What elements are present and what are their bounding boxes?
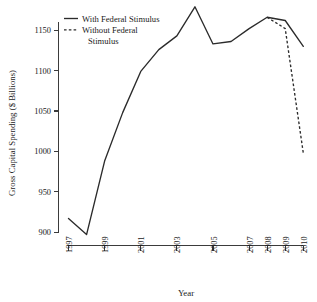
y-tick-label: 1100 bbox=[35, 67, 51, 76]
x-tick-label: 2005 bbox=[210, 236, 219, 253]
y-axis-tick-labels: 1150 1100 1050 1000 950 900 bbox=[34, 26, 51, 237]
legend-label-without-stimulus-line2: Stimulus bbox=[88, 36, 119, 46]
y-axis-ticks bbox=[54, 30, 59, 232]
x-tick-label: 2008 bbox=[264, 236, 273, 253]
chart-figure: 1150 1100 1050 1000 950 900 1997 1999 20… bbox=[0, 0, 317, 302]
x-tick-label: 2010 bbox=[300, 236, 309, 253]
y-tick-label: 1050 bbox=[34, 107, 51, 116]
x-tick-label: 2003 bbox=[173, 236, 182, 253]
y-tick-label: 900 bbox=[38, 228, 51, 237]
x-tick-label: 2001 bbox=[137, 236, 146, 253]
legend-label-with-stimulus: With Federal Stimulus bbox=[82, 14, 160, 24]
x-tick-label: 1999 bbox=[101, 236, 110, 253]
x-axis-tick-labels: 1997 1999 2001 2003 2005 2007 2008 2009 … bbox=[65, 236, 309, 253]
x-axis-title: Year bbox=[178, 288, 194, 298]
chart-legend: With Federal Stimulus Without Federal St… bbox=[64, 14, 160, 47]
x-tick-label: 2009 bbox=[282, 236, 291, 253]
y-tick-label: 1150 bbox=[35, 26, 51, 35]
y-tick-label: 950 bbox=[38, 188, 51, 197]
x-tick-label: 2007 bbox=[246, 236, 255, 253]
y-axis-title: Gross Capital Spending ($ Billions) bbox=[7, 70, 17, 196]
legend-label-without-stimulus-line1: Without Federal bbox=[82, 25, 138, 35]
y-tick-label: 1000 bbox=[34, 147, 51, 156]
x-tick-label: 1997 bbox=[65, 236, 74, 253]
line-chart: 1150 1100 1050 1000 950 900 1997 1999 20… bbox=[0, 0, 317, 302]
